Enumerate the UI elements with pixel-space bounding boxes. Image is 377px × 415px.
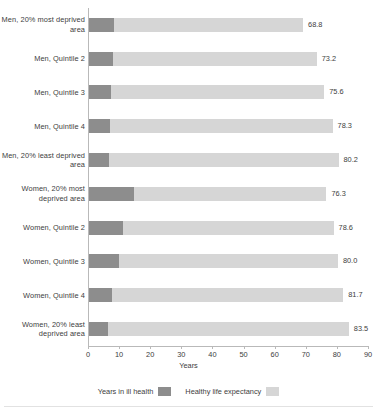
bar-category-label: Women, 20% least deprived area [1, 320, 85, 339]
legend-swatch-ill [158, 387, 171, 396]
bar-segment-years-in-ill-health [89, 187, 134, 201]
bar-value-label: 83.5 [354, 322, 368, 336]
bar-row: Women, Quintile 380.0 [0, 245, 377, 279]
stacked-bar [89, 52, 317, 66]
stacked-bar [89, 119, 333, 133]
stacked-bar [89, 153, 339, 167]
x-axis-tick [306, 346, 307, 349]
stacked-bar [89, 85, 324, 99]
bar-category-label: Men, Quintile 4 [1, 122, 85, 131]
bar-segment-healthy-life-expectancy [112, 288, 343, 302]
bar-category-label: Men, Quintile 2 [1, 54, 85, 63]
stacked-bar [89, 254, 338, 268]
bar-value-label: 80.0 [343, 254, 357, 268]
bar-segment-healthy-life-expectancy [134, 187, 327, 201]
bar-segment-years-in-ill-health [89, 85, 111, 99]
bar-row: Women, 20% most deprived area76.3 [0, 177, 377, 211]
bar-row: Men, 20% least deprived area80.2 [0, 143, 377, 177]
x-axis-tick [150, 346, 151, 349]
bottom-divider [4, 406, 373, 407]
x-axis-tick-label: 40 [208, 350, 216, 359]
stacked-bar [89, 221, 334, 235]
bar-segment-years-in-ill-health [89, 119, 110, 133]
x-axis-tick-label: 70 [302, 350, 310, 359]
bar-value-label: 78.3 [338, 119, 352, 133]
x-axis-tick-label: 0 [86, 350, 90, 359]
stacked-bar [89, 288, 343, 302]
x-axis-tick [119, 346, 120, 349]
legend-swatch-healthy [266, 387, 279, 396]
x-axis-tick [181, 346, 182, 349]
x-axis-tick-label: 80 [333, 350, 341, 359]
bar-segment-years-in-ill-health [89, 322, 108, 336]
x-axis-title: Years [0, 361, 377, 370]
bar-segment-years-in-ill-health [89, 52, 113, 66]
x-axis-tick [275, 346, 276, 349]
x-axis-tick-label: 60 [271, 350, 279, 359]
bar-segment-healthy-life-expectancy [114, 18, 303, 32]
x-axis: Years 0102030405060708090 [0, 346, 377, 376]
stacked-bar [89, 18, 303, 32]
bar-category-label: Women, Quintile 2 [1, 223, 85, 232]
x-axis-tick-label: 10 [115, 350, 123, 359]
bar-row: Women, 20% least deprived area83.5 [0, 312, 377, 346]
bar-category-label: Women, 20% most deprived area [1, 184, 85, 203]
x-axis-tick [244, 346, 245, 349]
legend-label: Years in ill health [98, 387, 154, 396]
bar-row: Men, Quintile 273.2 [0, 42, 377, 76]
bar-segment-healthy-life-expectancy [110, 119, 333, 133]
bar-value-label: 76.3 [331, 187, 345, 201]
bar-value-label: 78.6 [339, 221, 353, 235]
bar-rows: Men, 20% most deprived area68.8Men, Quin… [0, 8, 377, 346]
x-axis-tick [337, 346, 338, 349]
plot-area: Men, 20% most deprived area68.8Men, Quin… [0, 8, 377, 346]
bar-category-label: Women, Quintile 3 [1, 257, 85, 266]
bar-row: Women, Quintile 278.6 [0, 211, 377, 245]
bar-segment-healthy-life-expectancy [113, 52, 317, 66]
bar-segment-years-in-ill-health [89, 221, 123, 235]
legend-label: Healthy life expectancy [185, 387, 261, 396]
healthy-life-expectancy-bar-chart: Men, 20% most deprived area68.8Men, Quin… [0, 0, 377, 415]
bar-segment-healthy-life-expectancy [119, 254, 337, 268]
bar-segment-years-in-ill-health [89, 288, 112, 302]
legend-item[interactable]: Healthy life expectancy [185, 387, 279, 396]
bar-value-label: 80.2 [344, 153, 358, 167]
bar-segment-years-in-ill-health [89, 153, 109, 167]
x-axis-tick [88, 346, 89, 349]
bar-value-label: 75.6 [329, 85, 343, 99]
bar-category-label: Women, Quintile 4 [1, 291, 85, 300]
bar-category-label: Men, Quintile 3 [1, 88, 85, 97]
bar-row: Men, Quintile 478.3 [0, 109, 377, 143]
bar-segment-healthy-life-expectancy [111, 85, 324, 99]
x-axis-tick [212, 346, 213, 349]
bar-category-label: Men, 20% least deprived area [1, 151, 85, 170]
x-axis-tick [368, 346, 369, 349]
bar-category-label: Men, 20% most deprived area [1, 15, 85, 34]
bar-row: Men, Quintile 375.6 [0, 76, 377, 110]
x-axis-tick-label: 30 [177, 350, 185, 359]
bar-segment-healthy-life-expectancy [109, 153, 339, 167]
bar-value-label: 68.8 [308, 18, 322, 32]
chart-legend: Years in ill healthHealthy life expectan… [0, 387, 377, 396]
bar-row: Men, 20% most deprived area68.8 [0, 8, 377, 42]
bar-value-label: 81.7 [348, 288, 362, 302]
bar-row: Women, Quintile 481.7 [0, 278, 377, 312]
x-axis-tick-label: 20 [146, 350, 154, 359]
stacked-bar [89, 322, 349, 336]
bar-value-label: 73.2 [322, 52, 336, 66]
bar-segment-healthy-life-expectancy [123, 221, 333, 235]
bar-segment-years-in-ill-health [89, 18, 114, 32]
x-axis-tick-label: 90 [364, 350, 372, 359]
x-axis-tick-label: 50 [239, 350, 247, 359]
bar-segment-years-in-ill-health [89, 254, 119, 268]
bar-segment-healthy-life-expectancy [108, 322, 348, 336]
stacked-bar [89, 187, 326, 201]
legend-item[interactable]: Years in ill health [98, 387, 172, 396]
